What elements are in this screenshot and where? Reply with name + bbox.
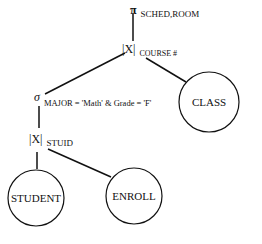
projection-attributes: SCHED,ROOM bbox=[141, 9, 200, 19]
selection-condition: MAJOR = 'Math' & Grade = 'F' bbox=[44, 98, 151, 108]
class-node-label: CLASS bbox=[192, 96, 226, 108]
selection-symbol: σ bbox=[34, 90, 40, 104]
projection-symbol: π bbox=[130, 3, 137, 17]
join-symbol: |X| bbox=[29, 132, 42, 146]
join-stuid-node: |X| STUID bbox=[29, 129, 73, 147]
projection-node: π SCHED,ROOM bbox=[130, 0, 199, 18]
enroll-node-label: ENROLL bbox=[112, 190, 155, 202]
selection-node: σ MAJOR = 'Math' & Grade = 'F' bbox=[34, 87, 151, 105]
student-node-label: STUDENT bbox=[11, 192, 61, 204]
tree-edges bbox=[0, 0, 262, 244]
join-symbol: |X| bbox=[122, 42, 135, 56]
join-course-condition: COURSE # bbox=[139, 49, 177, 58]
join-stuid-condition: STUID bbox=[46, 138, 73, 148]
edge-join-class bbox=[146, 58, 186, 82]
join-course-node: |X| COURSE # bbox=[122, 39, 177, 57]
edge-stuid-enroll bbox=[48, 149, 111, 177]
